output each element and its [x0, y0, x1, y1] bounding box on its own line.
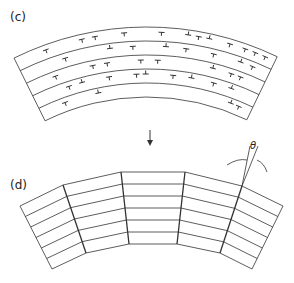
diagram: (c) (d) θ	[0, 0, 294, 283]
figure-svg	[0, 0, 294, 283]
